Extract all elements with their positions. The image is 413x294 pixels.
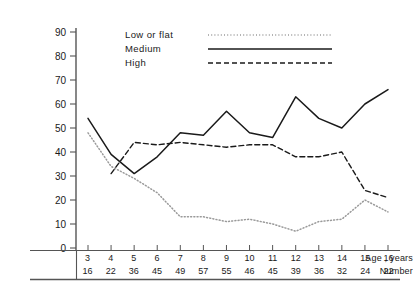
age-row-cells: 345678910111213141516 xyxy=(76,253,400,263)
series-line-low-or-flat xyxy=(88,133,388,231)
age-cell: 4 xyxy=(99,253,122,263)
series-line-high xyxy=(111,142,388,197)
series-line-medium xyxy=(88,90,388,174)
y-tick-label: 30 xyxy=(55,171,67,182)
age-cell: 6 xyxy=(145,253,168,263)
y-tick-label: 10 xyxy=(55,219,67,230)
age-cell: 16 xyxy=(377,253,400,263)
number-cell: 45 xyxy=(261,266,284,276)
legend-label-high: High xyxy=(125,57,146,68)
y-tick-label: 70 xyxy=(55,75,67,86)
number-cell: 55 xyxy=(215,266,238,276)
age-cell: 7 xyxy=(169,253,192,263)
number-cell: 32 xyxy=(331,266,354,276)
number-cell: 16 xyxy=(76,266,99,276)
data-table: Age , years 345678910111213141516 Number… xyxy=(0,250,413,294)
age-cell: 5 xyxy=(122,253,145,263)
number-cell: 45 xyxy=(145,266,168,276)
y-tick-labels: 0102030405060708090 xyxy=(55,27,67,254)
number-cell: 22 xyxy=(99,266,122,276)
y-tick-marks xyxy=(70,32,76,248)
age-cell: 15 xyxy=(354,253,377,263)
age-cell: 13 xyxy=(307,253,330,263)
number-cell: 36 xyxy=(307,266,330,276)
chart-screenshot: 0102030405060708090 Low or flatMediumHig… xyxy=(0,0,413,294)
age-cell: 10 xyxy=(238,253,261,263)
number-cell: 22 xyxy=(377,266,400,276)
age-cell: 3 xyxy=(76,253,99,263)
chart-legend: Low or flatMediumHigh xyxy=(125,29,332,68)
age-cell: 9 xyxy=(215,253,238,263)
number-cell: 49 xyxy=(169,266,192,276)
number-cell: 36 xyxy=(122,266,145,276)
legend-label-low-or-flat: Low or flat xyxy=(125,29,173,40)
data-series-layer xyxy=(88,90,388,232)
y-tick-label: 90 xyxy=(55,27,67,38)
number-row-cells: 1622364549575546453936322422 xyxy=(76,266,400,276)
number-cell: 24 xyxy=(354,266,377,276)
y-tick-label: 40 xyxy=(55,147,67,158)
y-tick-label: 60 xyxy=(55,99,67,110)
y-tick-label: 20 xyxy=(55,195,67,206)
age-cell: 12 xyxy=(284,253,307,263)
age-cell: 8 xyxy=(192,253,215,263)
number-cell: 46 xyxy=(238,266,261,276)
legend-label-medium: Medium xyxy=(125,43,161,54)
number-cell: 39 xyxy=(284,266,307,276)
y-tick-label: 80 xyxy=(55,51,67,62)
age-cell: 14 xyxy=(331,253,354,263)
number-cell: 57 xyxy=(192,266,215,276)
age-cell: 11 xyxy=(261,253,284,263)
y-tick-label: 50 xyxy=(55,123,67,134)
